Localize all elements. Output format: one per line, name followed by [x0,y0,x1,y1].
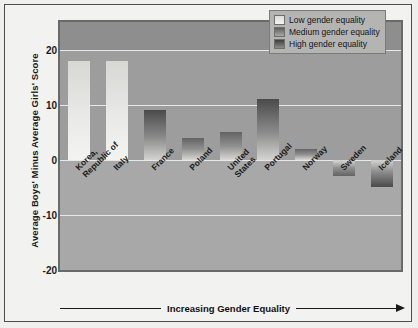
y-tick-label: 0 [25,154,57,165]
y-tick-label: -20 [25,265,57,276]
arrow-line-left [60,308,161,309]
arrow-line-right [296,308,397,309]
bar [68,61,90,160]
y-tick-label: -10 [25,209,57,220]
y-tick-label: 20 [25,44,57,55]
y-tick-label: 10 [25,99,57,110]
legend-item: Medium gender equality [274,26,380,38]
gridline--20 [60,270,401,271]
chart-frame: Average Boys' Minus Average Girls' Score… [4,4,412,322]
legend-item: High gender equality [274,38,380,50]
legend-swatch-icon [274,27,285,37]
legend-label: Low gender equality [289,15,365,25]
legend-swatch-icon [274,15,285,25]
legend-swatch-icon [274,39,285,49]
legend-label: Medium gender equality [289,27,380,37]
x-axis-caption: Increasing Gender Equality [161,303,296,314]
arrow-head-icon [396,304,405,312]
legend-item: Low gender equality [274,14,380,26]
gridline--10 [60,215,401,216]
chart-legend: Low gender equalityMedium gender equalit… [269,10,386,54]
x-axis-arrow: Increasing Gender Equality [60,301,405,315]
y-axis-ticks: 20100-10-20 [19,5,57,323]
legend-label: High gender equality [289,39,367,49]
